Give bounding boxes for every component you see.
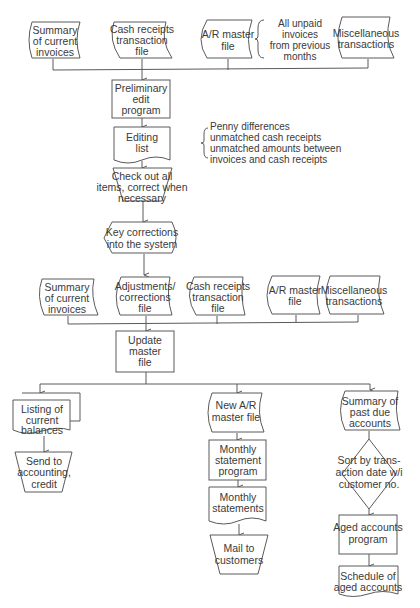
- send-to-accounting: Send to accounting, credit: [15, 452, 72, 492]
- svg-text:program: program: [348, 533, 387, 545]
- sort-decision: Sort by trans- action date w/i customer …: [335, 439, 402, 509]
- update-master-file: Update master file: [116, 331, 174, 372]
- monthly-statements: Monthly statements: [209, 487, 266, 524]
- svg-text:into the system: into the system: [107, 238, 178, 250]
- svg-text:from previous: from previous: [270, 40, 331, 51]
- svg-text:months: months: [284, 51, 317, 62]
- svg-text:list: list: [136, 142, 149, 154]
- svg-text:file: file: [211, 302, 225, 314]
- svg-text:New A/R: New A/R: [216, 399, 257, 411]
- svg-text:A/R master: A/R master: [202, 28, 255, 40]
- svg-text:invoices and cash receipts: invoices and cash receipts: [210, 154, 327, 165]
- listing-current-balances: Listing of current balances: [13, 393, 80, 436]
- summary-current-invoices-2: Summary of current invoices: [39, 279, 98, 315]
- svg-text:necessary: necessary: [118, 192, 167, 204]
- svg-text:accounting,: accounting,: [17, 466, 71, 478]
- adjustments-corrections-file: Adjustments/ corrections file: [115, 277, 176, 315]
- ar-master-file-1: A/R master file: [201, 20, 255, 58]
- svg-text:invoices: invoices: [36, 46, 74, 58]
- svg-text:unmatched amounts between: unmatched amounts between: [210, 143, 341, 154]
- svg-text:invoices: invoices: [48, 303, 86, 315]
- check-out-items: Check out all items, correct when necess…: [96, 168, 187, 204]
- svg-text:Penny differences: Penny differences: [210, 121, 290, 132]
- svg-text:invoices: invoices: [282, 29, 318, 40]
- svg-text:aged accounts: aged accounts: [334, 581, 402, 593]
- svg-text:Aged accounts: Aged accounts: [333, 521, 402, 533]
- svg-text:file: file: [135, 45, 149, 57]
- svg-text:program: program: [121, 104, 160, 116]
- svg-text:customers: customers: [215, 554, 263, 566]
- svg-text:Key corrections: Key corrections: [106, 226, 178, 238]
- summary-current-invoices-1: Summary of current invoices: [29, 22, 80, 58]
- stage1-connectors: [53, 59, 368, 80]
- stage2-connectors: [68, 315, 358, 331]
- svg-text:Sort by trans-: Sort by trans-: [337, 454, 401, 466]
- miscellaneous-transactions-2: Miscellaneous transactions: [321, 276, 388, 314]
- svg-text:action date w/i: action date w/i: [335, 466, 402, 478]
- editing-list-note: Penny differences unmatched cash receipt…: [201, 121, 341, 165]
- svg-text:statements: statements: [212, 502, 263, 514]
- svg-text:accounts: accounts: [349, 417, 391, 429]
- svg-text:program: program: [218, 465, 257, 477]
- svg-text:credit: credit: [31, 478, 57, 490]
- svg-text:file: file: [138, 302, 152, 314]
- editing-list: Editing list: [114, 127, 170, 163]
- cash-receipts-file-2: Cash receipts transaction file: [186, 277, 250, 315]
- aged-accounts-program: Aged accounts program: [333, 515, 402, 554]
- ar-master-file-2: A/R master file: [267, 276, 322, 314]
- key-corrections: Key corrections into the system: [104, 222, 178, 253]
- svg-text:unmatched cash receipts: unmatched cash receipts: [210, 132, 321, 143]
- ar-master-note: All unpaid invoices from previous months: [255, 18, 330, 62]
- svg-text:file: file: [138, 356, 152, 368]
- mail-to-customers: Mail to customers: [210, 535, 268, 574]
- schedule-aged-accounts: Schedule of aged accounts: [334, 566, 402, 597]
- svg-text:master file: master file: [212, 411, 261, 423]
- new-ar-master-file: New A/R master file: [208, 393, 264, 432]
- flowchart-canvas: Summary of current invoices Cash receipt…: [0, 0, 420, 608]
- preliminary-edit-program: Preliminary edit program: [112, 80, 170, 118]
- svg-text:Mail to: Mail to: [224, 542, 255, 554]
- cash-receipts-file-1: Cash receipts transaction file: [110, 22, 174, 58]
- svg-text:customer no.: customer no.: [339, 478, 400, 490]
- svg-text:All unpaid: All unpaid: [278, 18, 322, 29]
- svg-text:file: file: [221, 40, 235, 52]
- branch-connectors: [40, 372, 370, 393]
- summary-past-due-accounts: Summary of past due accounts: [341, 391, 401, 430]
- svg-text:transactions: transactions: [338, 38, 395, 50]
- miscellaneous-transactions-1: Miscellaneous transactions: [333, 17, 400, 58]
- monthly-statement-program: Monthly statement program: [209, 440, 266, 480]
- svg-text:balances: balances: [21, 424, 63, 436]
- svg-text:transactions: transactions: [326, 295, 383, 307]
- svg-text:file: file: [288, 295, 302, 307]
